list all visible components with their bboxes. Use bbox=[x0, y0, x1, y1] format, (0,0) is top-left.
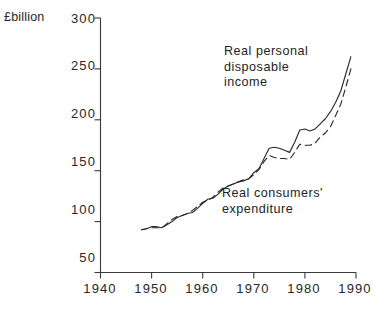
y-tick-label-200: 200 bbox=[52, 106, 96, 121]
y-tick-label-300: 300 bbox=[52, 11, 96, 26]
annotation-real-personal-disposable-income: Real personal disposable income bbox=[224, 44, 308, 91]
y-tick-label-150: 150 bbox=[52, 154, 96, 169]
y-axis-unit-label: £billion bbox=[4, 10, 45, 24]
x-axis-ticks bbox=[101, 273, 357, 279]
x-tick-label-1990: 1990 bbox=[325, 281, 375, 296]
y-tick-label-50: 50 bbox=[52, 250, 96, 265]
y-tick-label-250: 250 bbox=[52, 58, 96, 73]
annotation-real-consumers-expenditure: Real consumers' expenditure bbox=[222, 186, 323, 217]
y-axis-ticks bbox=[95, 18, 101, 273]
y-tick-label-100: 100 bbox=[52, 202, 96, 217]
